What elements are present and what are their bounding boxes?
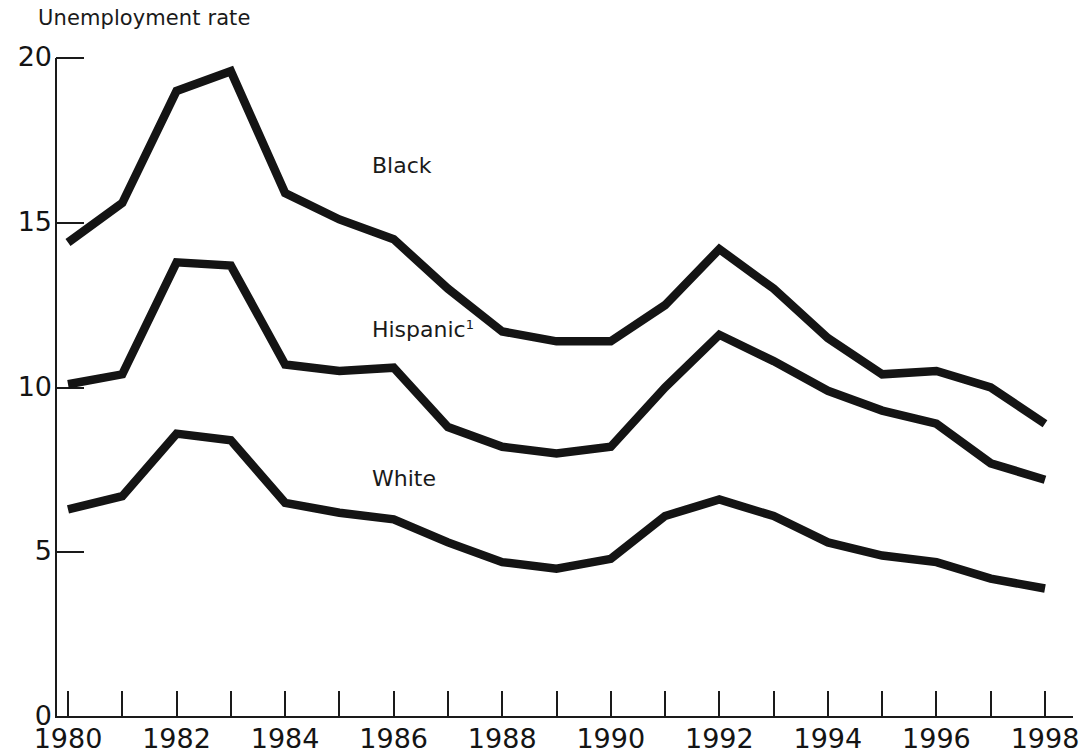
- series-label-white: White: [372, 468, 436, 490]
- axis-lines: [56, 58, 1073, 717]
- x-tick-label: 1992: [679, 725, 759, 752]
- x-tick-label: 1988: [462, 725, 542, 752]
- y-tick-label: 20: [0, 43, 52, 70]
- y-tick-label: 5: [0, 537, 52, 564]
- x-tick-label: 1990: [571, 725, 651, 752]
- series-lines: [68, 71, 1045, 588]
- footnote-marker: 1: [466, 317, 474, 332]
- x-tick-label: 1994: [788, 725, 868, 752]
- series-label-hispanic: Hispanic1: [372, 319, 474, 341]
- x-tick-label: 1980: [28, 725, 108, 752]
- x-tick-label: 1982: [137, 725, 217, 752]
- series-label-black: Black: [372, 155, 432, 177]
- axes-group: [56, 58, 1073, 717]
- y-tick-label: 10: [0, 373, 52, 400]
- x-tick-label: 1998: [1005, 725, 1083, 752]
- series-line-black: [68, 71, 1045, 424]
- tick-marks: [56, 58, 1045, 717]
- y-tick-label: 15: [0, 208, 52, 235]
- x-tick-label: 1986: [354, 725, 434, 752]
- x-tick-label: 1984: [245, 725, 325, 752]
- x-tick-label: 1996: [896, 725, 976, 752]
